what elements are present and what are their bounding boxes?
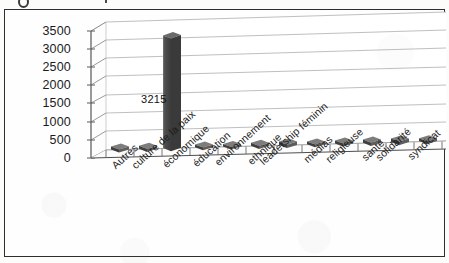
y-axis-tick-labels: 3500 3000 2500 2000 1500 1000 500 0 [21, 10, 71, 258]
chart-plot-area [5, 10, 446, 258]
title-glyph-fragment-2 [105, 0, 107, 3]
y-tick-label: 3000 [25, 43, 71, 56]
cropped-title-artifact [0, 0, 449, 9]
y-tick-label: 2500 [25, 61, 71, 74]
chart-frame: 3500 3000 2500 2000 1500 1000 500 0 3215… [4, 9, 445, 257]
left-wall [91, 22, 106, 158]
y-tick-label: 1500 [25, 97, 71, 110]
y-tick-label: 1000 [25, 116, 71, 129]
bar-value-label-economique: 3215 [141, 93, 167, 105]
bar-economique [163, 32, 181, 151]
y-tick-label: 3500 [25, 25, 71, 38]
y-tick-label: 0 [25, 152, 71, 165]
title-glyph-fragment-1 [18, 0, 29, 8]
chart-svg [5, 10, 446, 258]
scanned-page: 3500 3000 2500 2000 1500 1000 500 0 3215… [0, 0, 449, 263]
y-tick-label: 2000 [25, 79, 71, 92]
y-tick-label: 500 [25, 134, 71, 147]
